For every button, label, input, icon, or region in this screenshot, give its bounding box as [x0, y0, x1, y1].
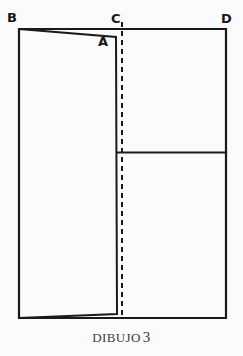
- figure-caption-word: DIBUJO: [92, 330, 141, 345]
- figure-page: B C D A DIBUJO3: [0, 0, 243, 356]
- figure-caption-number: 3: [143, 329, 151, 345]
- folded-flap-quadrilateral-path: [19, 29, 117, 318]
- geometry-drawing: [0, 0, 243, 356]
- vertex-label-a: A: [98, 35, 108, 48]
- figure-caption: DIBUJO3: [0, 330, 243, 345]
- vertex-label-c: C: [111, 12, 121, 25]
- vertex-label-d: D: [221, 12, 232, 25]
- vertex-label-b: B: [7, 11, 17, 24]
